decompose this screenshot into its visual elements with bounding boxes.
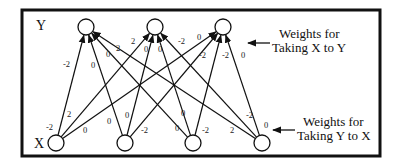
node-x3 [185, 135, 201, 151]
layer-label-y: Y [36, 18, 46, 33]
node-y2 [147, 19, 163, 35]
weight-label: 0 [107, 116, 111, 126]
weight-label: 0 [91, 60, 95, 70]
node-y3 [215, 19, 231, 35]
weight-label: -2 [202, 125, 209, 135]
node-x2 [117, 135, 133, 151]
annotation-y-to-x-line1: Weights for [303, 114, 364, 129]
weight-label: -2 [63, 59, 70, 69]
weight-label: -2 [246, 110, 253, 120]
weight-label: 2 [230, 125, 234, 135]
weight-label: -2 [178, 36, 185, 46]
weight-label: -2 [199, 50, 206, 60]
weight-label: 0 [106, 49, 110, 59]
weight-label: 2 [116, 43, 120, 53]
weight-label: 0 [83, 125, 87, 135]
annotation-x-to-y-line2: Taking X to Y [272, 40, 347, 55]
annotation-x-to-y-line1: Weights for [279, 26, 340, 41]
node-y1 [78, 19, 94, 35]
weight-label: -2 [46, 122, 53, 132]
bidirectional-network-diagram: -2002200-20-2-20-22000-200-22-20 Y X Wei… [0, 0, 396, 168]
weight-label: 2 [67, 109, 71, 119]
weight-label: 0 [158, 44, 162, 54]
weight-label: 0 [197, 32, 201, 42]
weight-label: -2 [141, 125, 148, 135]
weight-label: 2 [131, 36, 135, 46]
weight-label: 0 [144, 44, 148, 54]
weight-label: -2 [222, 50, 229, 60]
node-x4 [254, 135, 270, 151]
layer-label-x: X [34, 136, 44, 151]
weight-label: 0 [241, 50, 245, 60]
node-x1 [48, 135, 64, 151]
weight-label: 0 [125, 110, 129, 120]
weight-label: 0 [175, 123, 179, 133]
weight-label: 0 [181, 108, 185, 118]
annotation-y-to-x-line2: Taking Y to X [297, 128, 371, 143]
weight-label: 0 [264, 120, 268, 130]
